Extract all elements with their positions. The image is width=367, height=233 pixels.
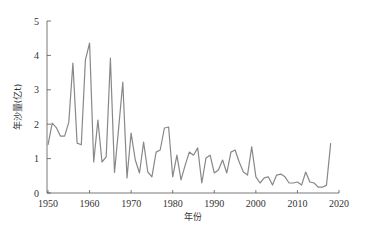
y-tick-label: 3 xyxy=(34,84,39,95)
x-tick-label: 2020 xyxy=(329,198,349,209)
x-tick-label: 1970 xyxy=(121,198,141,209)
line-chart: 01234519501960197019801990200020102020 年… xyxy=(0,0,367,233)
y-axis-title: 年沙量(亿t) xyxy=(12,84,23,131)
y-tick-label: 2 xyxy=(34,119,39,130)
x-tick-label: 1980 xyxy=(163,198,183,209)
x-tick-label: 2010 xyxy=(287,198,307,209)
x-tick-label: 1960 xyxy=(80,198,100,209)
x-axis-title: 年份 xyxy=(184,211,202,222)
y-tick-label: 4 xyxy=(34,50,39,61)
y-tick-label: 1 xyxy=(34,153,39,164)
x-tick-label: 2000 xyxy=(246,198,266,209)
y-tick-label: 5 xyxy=(34,16,39,27)
y-tick-label: 0 xyxy=(34,188,39,199)
x-tick-label: 1990 xyxy=(204,198,224,209)
chart-axes: 01234519501960197019801990200020102020 xyxy=(34,16,349,210)
x-tick-label: 1950 xyxy=(38,198,58,209)
sediment-series-line xyxy=(48,43,331,187)
